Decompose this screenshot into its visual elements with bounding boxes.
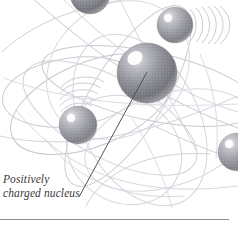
nucleus-annotation-label: Positively charged nucleus [3,173,103,200]
atom-illustration [0,0,238,250]
electron-left-middle-highlight [67,114,75,122]
electron-top-right-highlight [164,14,172,22]
atom-figure-page: Positively charged nucleus [0,0,238,250]
orbit-chord-8 [200,54,217,158]
electron-right-edge-highlight [225,140,233,148]
electron-top-right [157,7,193,43]
motion-trail-top-right [190,6,230,44]
electron-left-middle [59,106,97,144]
positively-charged-nucleus [116,43,182,109]
